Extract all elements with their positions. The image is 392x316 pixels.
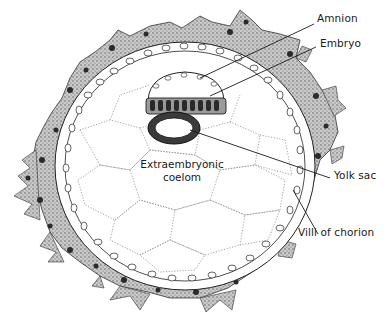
label-extraembryonic-coelom: Extraembryonic coelom (132, 158, 232, 184)
label-villi-of-chorion: Villi of chorion (298, 226, 374, 238)
yolk-sac (148, 112, 200, 144)
label-coelom-line2: coelom (132, 171, 232, 184)
embryo-disc (146, 98, 226, 114)
label-amnion: Amnion (317, 12, 358, 24)
label-embryo: Embryo (320, 37, 361, 49)
label-yolk-sac: Yolk sac (334, 169, 376, 181)
label-coelom-line1: Extraembryonic (132, 158, 232, 171)
